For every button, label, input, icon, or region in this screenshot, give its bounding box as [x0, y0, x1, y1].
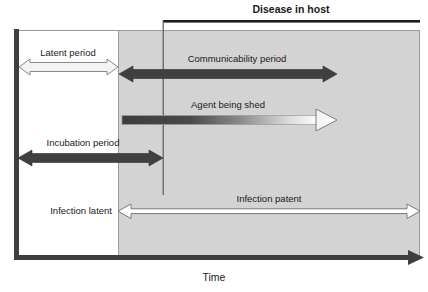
time-axis-label: Time [203, 271, 226, 283]
diagram-canvas: Disease in host Time Latent period Commu… [0, 0, 428, 292]
disease-in-host-title: Disease in host [252, 3, 330, 15]
axis-vertical [14, 29, 19, 260]
bar-label-incubation-period: Incubation period [47, 137, 120, 148]
bar-label-communicability-period: Communicability period [188, 53, 287, 64]
bar-label-agent-being-shed: Agent being shed [191, 99, 265, 110]
bar-label-latent-period: Latent period [40, 47, 95, 58]
disease-in-host-diagram: Disease in host Time Latent period Commu… [0, 0, 428, 292]
bar-label-infection-latent: Infection latent [50, 205, 112, 216]
bar-label-infection-patent: Infection patent [237, 193, 302, 204]
